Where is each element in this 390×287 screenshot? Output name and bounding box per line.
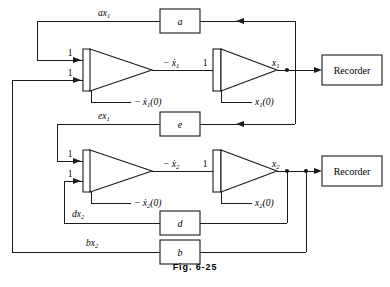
integrator-3[interactable] — [83, 150, 160, 192]
signal-label-minus-x1dot: − ẋ1 — [163, 58, 179, 69]
x2-output-bus — [285, 168, 322, 252]
integrator-3-gain-bottom: 1 — [68, 169, 73, 179]
integrator-3-gain-top: 1 — [68, 149, 73, 159]
integrator-2[interactable] — [213, 49, 287, 91]
integrator-4-initial-condition-lead — [221, 192, 252, 203]
signal-label-dx2: dx2 — [72, 209, 85, 220]
junction-dot-x2-d — [285, 169, 289, 173]
integrator-1[interactable] — [83, 49, 160, 91]
integrator-1-gain-top: 1 — [68, 48, 73, 58]
arrowhead-int1-input-bottom — [73, 77, 81, 83]
integrator-4-ic-label: x2(0) — [254, 198, 274, 209]
integrator-4-gain: 1 — [203, 159, 208, 169]
integrator-1-initial-condition-lead — [91, 91, 131, 102]
integrator-3-ic-label: − ẋ2(0) — [134, 198, 161, 209]
x1-output-bus — [285, 21, 322, 124]
arrowhead-recorder-bottom — [314, 168, 322, 174]
coefficient-block-a-label: a — [178, 16, 183, 27]
arrowhead-recorder-top — [314, 67, 322, 73]
recorder-top-label: Recorder — [334, 65, 371, 76]
figure-caption: Fig. 6-25 — [0, 262, 390, 272]
junction-dot-x2-b — [304, 169, 308, 173]
signal-label-ex1: ex1 — [98, 111, 110, 122]
integrator-3-initial-condition-lead — [91, 192, 131, 203]
coefficient-block-e-label: e — [178, 119, 183, 130]
arrowhead-a-feedback — [236, 18, 244, 24]
integrator-1-ic-label: − ẋ1(0) — [134, 97, 161, 108]
signal-label-ax1: ax1 — [98, 8, 110, 19]
arrowhead-e-feedback — [236, 121, 244, 127]
signal-label-bx2: bx2 — [86, 238, 99, 249]
integrator-4[interactable] — [213, 150, 287, 192]
signal-label-x1: x1 — [271, 58, 279, 69]
signal-label-minus-x2dot: − ẋ2 — [163, 159, 180, 170]
integrator-1-gain-bottom: 1 — [68, 68, 73, 78]
signal-label-x2: x2 — [271, 159, 280, 170]
analog-computer-diagram: a ax1 1 1 − ẋ1(0) − ẋ1 — [0, 0, 390, 287]
integrator-2-initial-condition-lead — [221, 91, 252, 102]
integrator-2-gain: 1 — [203, 58, 208, 68]
coefficient-block-b-label: b — [178, 247, 183, 258]
arrowhead-int3-input-bottom — [73, 178, 81, 184]
integrator-2-ic-label: x1(0) — [254, 97, 274, 108]
recorder-bottom-label: Recorder — [334, 166, 371, 177]
figure-container: a ax1 1 1 − ẋ1(0) − ẋ1 — [0, 0, 390, 287]
